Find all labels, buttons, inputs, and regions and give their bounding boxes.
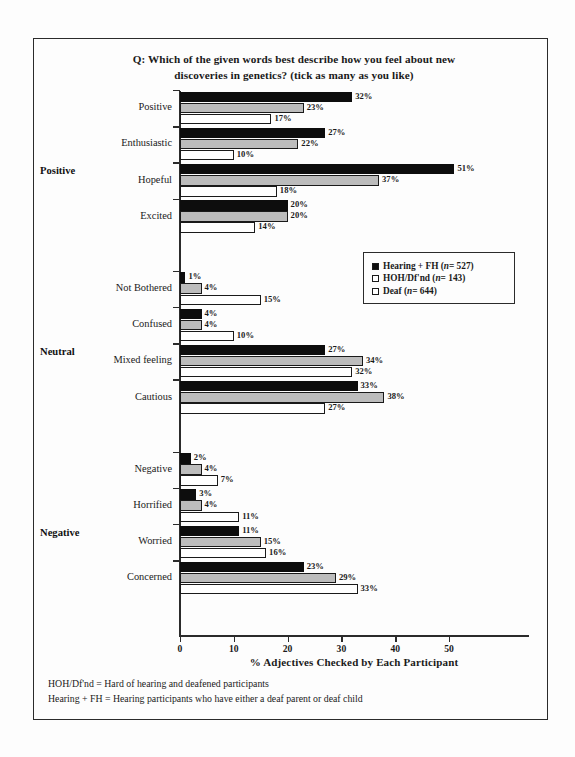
bar-positive-2 — [180, 114, 271, 125]
bar-value-label: 17% — [274, 113, 291, 124]
bar-worried-0 — [180, 526, 239, 537]
bar-negative-2 — [180, 475, 218, 486]
figure-page: Q: Which of the given words best describ… — [0, 0, 575, 757]
bar-not-bothered-1 — [180, 283, 202, 294]
footnote-2: Hearing + FH = Hearing participants who … — [48, 691, 538, 706]
bar-excited-2 — [180, 222, 255, 233]
x-axis-tick — [234, 636, 235, 642]
category-label-concerned: Concerned — [52, 571, 172, 582]
legend-n-value: = 527) — [449, 262, 474, 271]
bar-value-label: 14% — [258, 221, 275, 232]
bar-concerned-0 — [180, 562, 304, 573]
bar-value-label: 18% — [280, 185, 297, 196]
bar-value-label: 27% — [328, 402, 345, 413]
bar-horrified-2 — [180, 512, 239, 523]
bar-value-label: 10% — [237, 330, 254, 341]
group-label-neutral: Neutral — [40, 346, 116, 357]
y-axis-tick — [173, 90, 180, 91]
legend-n-value: = 644) — [412, 287, 437, 296]
bar-value-label: 51% — [457, 163, 474, 174]
bar-value-label: 27% — [328, 344, 345, 355]
bar-hopeful-1 — [180, 175, 379, 186]
x-axis-tick-label: 30 — [326, 643, 356, 654]
outlined-square-icon — [372, 275, 379, 282]
footnotes: HOH/Df'nd = Hard of hearing and deafened… — [48, 676, 538, 706]
x-axis-tick — [449, 636, 450, 642]
bar-confused-2 — [180, 331, 234, 342]
bar-value-label: 4% — [205, 319, 218, 330]
bar-confused-1 — [180, 320, 202, 331]
y-axis-tick — [173, 560, 180, 561]
bar-value-label: 16% — [269, 547, 286, 558]
legend-label: Deaf ( — [383, 287, 407, 296]
x-axis-tick — [180, 636, 181, 642]
bar-excited-1 — [180, 211, 288, 222]
category-label-excited: Excited — [52, 210, 172, 221]
category-label-negative: Negative — [52, 463, 172, 474]
bar-value-label: 15% — [264, 294, 281, 305]
category-label-positive: Positive — [52, 101, 172, 112]
y-axis-tick — [173, 488, 180, 489]
y-axis-tick — [173, 343, 180, 344]
y-axis-tick — [173, 271, 180, 272]
bar-value-label: 23% — [307, 102, 324, 113]
bar-mixed-feeling-2 — [180, 367, 352, 378]
bar-worried-2 — [180, 548, 266, 559]
bar-positive-0 — [180, 92, 352, 103]
bar-value-label: 4% — [205, 463, 218, 474]
filled-square-icon — [372, 263, 379, 270]
legend-n-value: = 143) — [441, 274, 466, 283]
bar-excited-0 — [180, 200, 288, 211]
bar-cautious-1 — [180, 392, 384, 403]
bar-value-label: 3% — [199, 488, 212, 499]
bar-value-label: 4% — [205, 499, 218, 510]
bar-value-label: 20% — [291, 210, 308, 221]
bar-concerned-2 — [180, 584, 358, 595]
y-axis-tick — [173, 199, 180, 200]
legend-item-0: Hearing + FH (n = 527) — [372, 262, 507, 271]
bar-value-label: 11% — [242, 525, 259, 536]
category-label-cautious: Cautious — [52, 391, 172, 402]
y-axis-tick — [173, 126, 180, 127]
bar-worried-1 — [180, 537, 261, 548]
x-axis-tick — [395, 636, 396, 642]
bar-cautious-0 — [180, 381, 358, 392]
group-label-negative: Negative — [40, 527, 116, 538]
bar-value-label: 20% — [291, 199, 308, 210]
bar-value-label: 2% — [194, 452, 207, 463]
x-axis-line — [179, 635, 529, 637]
bar-enthusiastic-2 — [180, 150, 234, 161]
bar-negative-0 — [180, 453, 191, 464]
category-label-confused: Confused — [52, 318, 172, 329]
plot-area: 01020304050 32%23%17%27%22%10%51%37%18%2… — [34, 39, 549, 721]
group-label-positive: Positive — [40, 165, 116, 176]
y-axis-tick — [173, 452, 180, 453]
bar-mixed-feeling-1 — [180, 356, 363, 367]
x-axis-tick-label: 50 — [434, 643, 464, 654]
bar-value-label: 11% — [242, 511, 259, 522]
bar-value-label: 34% — [366, 355, 383, 366]
bar-value-label: 10% — [237, 149, 254, 160]
y-axis-tick — [173, 379, 180, 380]
bar-enthusiastic-1 — [180, 139, 298, 150]
bar-not-bothered-0 — [180, 272, 185, 283]
x-axis-tick-label: 40 — [380, 643, 410, 654]
y-axis-tick — [173, 162, 180, 163]
y-axis-tick — [173, 524, 180, 525]
x-axis-tick-label: 10 — [219, 643, 249, 654]
legend-label: Hearing + FH ( — [383, 262, 444, 271]
bar-value-label: 4% — [205, 308, 218, 319]
bar-value-label: 7% — [221, 474, 234, 485]
category-label-not-bothered: Not Bothered — [52, 282, 172, 293]
x-axis-title: % Adjectives Checked by Each Participant — [179, 656, 529, 668]
x-axis-tick — [288, 636, 289, 642]
category-label-horrified: Horrified — [52, 499, 172, 510]
bar-value-label: 29% — [339, 572, 356, 583]
bar-enthusiastic-0 — [180, 128, 325, 139]
bar-mixed-feeling-0 — [180, 345, 325, 356]
bar-horrified-1 — [180, 500, 202, 511]
bar-value-label: 15% — [264, 536, 281, 547]
legend-item-1: HOH/Df'nd (n = 143) — [372, 274, 507, 283]
bar-cautious-2 — [180, 403, 325, 414]
bar-value-label: 32% — [355, 366, 372, 377]
